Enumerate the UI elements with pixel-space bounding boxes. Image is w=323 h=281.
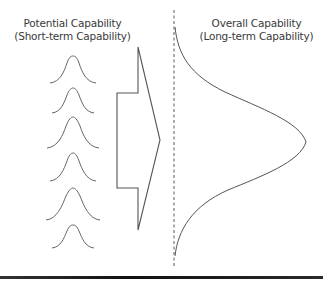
short-term-curve-1 xyxy=(50,56,96,83)
short-term-curve-3 xyxy=(47,117,99,148)
capability-diagram xyxy=(0,0,323,281)
short-term-curve-2 xyxy=(52,88,94,113)
short-term-curve-4 xyxy=(50,153,96,181)
short-term-curve-5 xyxy=(46,188,100,220)
transform-arrow xyxy=(117,47,160,230)
bottom-border xyxy=(0,276,323,279)
short-term-distributions xyxy=(46,56,100,248)
short-term-curve-6 xyxy=(52,225,94,248)
long-term-distribution-curve xyxy=(175,27,306,256)
